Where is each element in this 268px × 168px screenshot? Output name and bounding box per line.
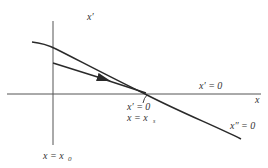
xprime-zero-axis-label: x′ = 0 xyxy=(198,80,222,91)
intersection-label-line2: x = x xyxy=(126,112,148,123)
intersection-label-line1: x′ = 0 xyxy=(126,101,150,112)
x0-label: x = x xyxy=(42,150,64,161)
xdoubleprime-zero-label: x″ = 0 xyxy=(229,120,255,131)
vertical-axis-label: x′ xyxy=(86,11,94,22)
intersection-label-sub: s xyxy=(153,118,156,124)
trajectory-line-continued xyxy=(100,78,146,93)
phase-diagram: x′ x x′ = 0 x′ = 0 x = x s x″ = 0 x = x … xyxy=(0,0,268,168)
trajectory-line xyxy=(53,63,104,79)
x0-label-sub: 0 xyxy=(68,155,72,163)
horizontal-axis-label: x xyxy=(254,94,260,105)
